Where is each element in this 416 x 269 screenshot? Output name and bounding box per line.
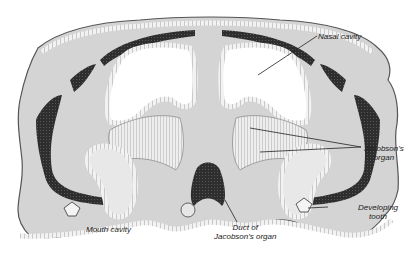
label-developing-tooth-line2: tooth (358, 212, 398, 221)
label-jacobsons-organ-line1: Jacobson's (364, 144, 404, 153)
label-developing-tooth: Developing tooth (358, 203, 398, 221)
label-duct-line2: Jacobson's organ (214, 232, 276, 241)
label-duct-of-jacobsons-organ: Duct of Jacobson's organ (214, 223, 276, 241)
label-jacobsons-organ: Jacobson's organ (364, 144, 404, 162)
label-jacobsons-organ-line2: organ (364, 153, 404, 162)
nasopalatine-structure (181, 203, 195, 217)
label-developing-tooth-line1: Developing (358, 203, 398, 212)
label-mouth-cavity: Mouth cavity (86, 225, 131, 234)
label-duct-line1: Duct of (214, 223, 276, 232)
label-nasal-cavity: Nasal cavity (318, 32, 361, 41)
